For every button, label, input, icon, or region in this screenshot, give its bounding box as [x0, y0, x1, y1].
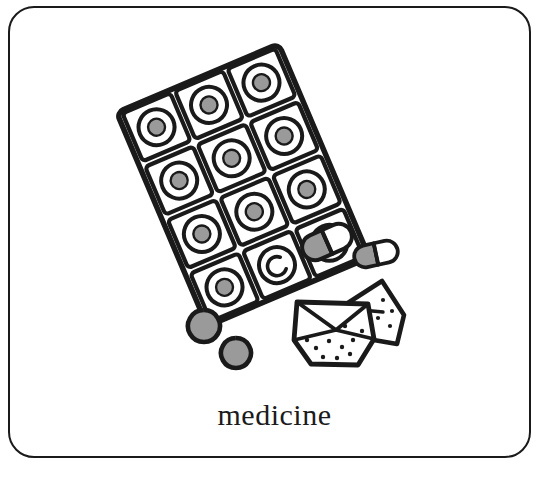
tablet-2: [221, 338, 251, 368]
flashcard: medicine: [0, 0, 549, 477]
card-caption: medicine: [0, 398, 549, 432]
tablet-1: [188, 310, 220, 342]
powder-packet: [294, 281, 404, 365]
blister-pack: [117, 44, 370, 326]
